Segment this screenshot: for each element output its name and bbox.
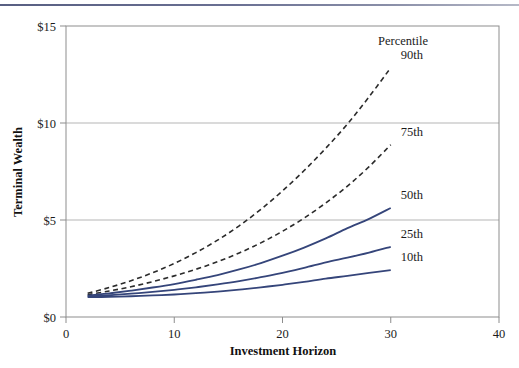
y-axis-ticks: $0$5$10$15 xyxy=(37,20,66,325)
series-label-50th: 50th xyxy=(401,188,424,202)
y-axis-title: Terminal Wealth xyxy=(11,127,25,217)
x-axis-title: Investment Horizon xyxy=(230,344,337,358)
x-tick-label-30: 30 xyxy=(385,327,398,341)
series-label-10th: 10th xyxy=(401,250,424,264)
series-curve-90th xyxy=(88,68,391,294)
series-curve-50th xyxy=(88,208,391,296)
y-tick-label-10: $10 xyxy=(37,117,56,131)
y-tick-label-0: $0 xyxy=(44,311,57,325)
x-tick-label-40: 40 xyxy=(493,327,506,341)
gridlines-group xyxy=(66,123,499,220)
figure-container: 010203040 $0$5$10$15 90th75th50th25th10t… xyxy=(0,0,519,368)
legend-title: Percentile xyxy=(378,34,428,48)
y-tick-label-5: $5 xyxy=(44,214,57,228)
series-label-75th: 75th xyxy=(401,125,424,139)
percentile-terminal-wealth-chart: 010203040 $0$5$10$15 90th75th50th25th10t… xyxy=(0,0,519,368)
x-tick-label-0: 0 xyxy=(63,327,69,341)
y-tick-label-15: $15 xyxy=(37,20,56,34)
series-label-25th: 25th xyxy=(401,227,424,241)
x-tick-label-10: 10 xyxy=(168,327,181,341)
series-labels-group: 90th75th50th25th10th xyxy=(401,48,424,264)
series-curves-group xyxy=(88,68,391,298)
series-label-90th: 90th xyxy=(401,48,424,62)
x-tick-label-20: 20 xyxy=(276,327,289,341)
x-axis-ticks: 010203040 xyxy=(63,317,505,341)
